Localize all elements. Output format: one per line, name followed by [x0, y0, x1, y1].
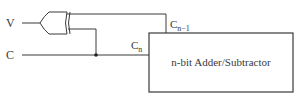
xor-output-wire — [67, 14, 166, 33]
v-label: V — [6, 16, 15, 30]
cn-minus-1-label: Cn−1 — [170, 18, 190, 33]
c-label: C — [6, 48, 14, 62]
junction-dot — [94, 53, 98, 57]
adder-subtractor-diagram: V C Cn−1 Cn n-bit Adder/Subtractor — [0, 0, 303, 100]
xor-gate-icon — [40, 12, 70, 34]
block-label: n-bit Adder/Subtractor — [171, 56, 271, 68]
cn-label: Cn — [131, 39, 142, 54]
c-to-xor-wire — [68, 29, 96, 55]
